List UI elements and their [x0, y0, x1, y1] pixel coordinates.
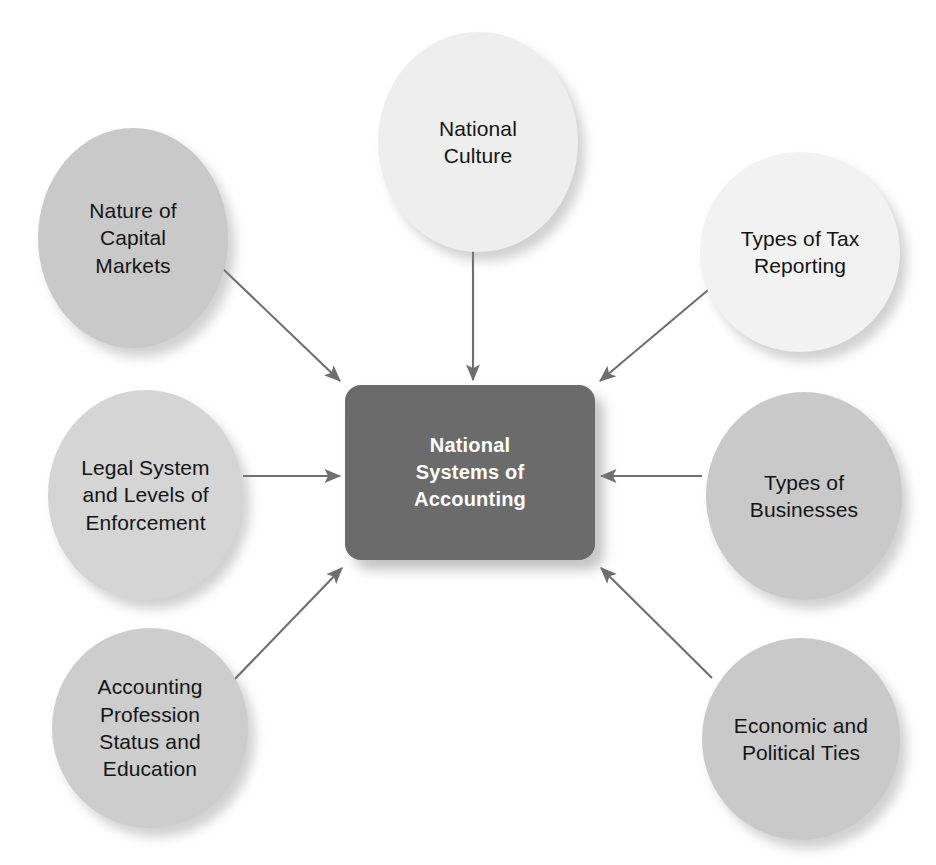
- arrow-nature-of-capital-markets: [222, 268, 340, 381]
- arrow-accounting-profession-status-and-education: [232, 568, 342, 682]
- node-nature-of-capital-markets[interactable]: Nature of Capital Markets: [38, 128, 228, 348]
- node-label: Types of Tax Reporting: [731, 225, 870, 280]
- arrow-economic-and-political-ties: [601, 568, 712, 678]
- node-label: Nature of Capital Markets: [79, 197, 186, 279]
- node-types-of-tax-reporting[interactable]: Types of Tax Reporting: [700, 152, 900, 352]
- center-node-national-systems-of-accounting[interactable]: National Systems of Accounting: [345, 385, 595, 560]
- node-label: Types of Businesses: [740, 469, 868, 524]
- node-economic-and-political-ties[interactable]: Economic and Political Ties: [702, 638, 900, 840]
- node-label: Economic and Political Ties: [724, 712, 878, 767]
- diagram-canvas: Nature of Capital Markets National Cultu…: [0, 0, 936, 865]
- node-label: Accounting Profession Status and Educati…: [88, 673, 213, 782]
- node-label: National Culture: [429, 115, 527, 170]
- node-types-of-businesses[interactable]: Types of Businesses: [706, 392, 902, 600]
- center-node-label: National Systems of Accounting: [414, 432, 526, 512]
- node-national-culture[interactable]: National Culture: [378, 32, 578, 252]
- node-label: Legal System and Levels of Enforcement: [71, 454, 219, 536]
- node-legal-system-and-levels-of-enforcement[interactable]: Legal System and Levels of Enforcement: [48, 390, 243, 600]
- node-accounting-profession-status-and-education[interactable]: Accounting Profession Status and Educati…: [52, 628, 248, 828]
- arrow-types-of-tax-reporting: [600, 285, 714, 381]
